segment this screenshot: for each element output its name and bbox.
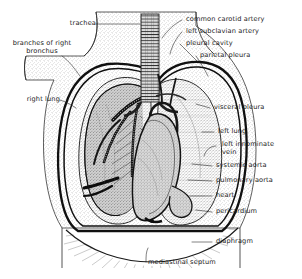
label-left-subclavian-artery: left subclavian artery <box>186 28 302 36</box>
label-branches-of-right-bronchus: branches of right bronchus <box>4 40 80 55</box>
label-pericardium: pericardium <box>216 208 302 216</box>
label-left-innominate-vein: left innominate vein <box>222 141 302 156</box>
label-common-carotid-artery: common carotid artery <box>186 16 302 24</box>
label-left-lung: left lung <box>218 128 302 136</box>
label-trachea: trachea <box>20 20 96 28</box>
label-pulmonary-aorta: pulmonary aorta <box>216 177 302 185</box>
label-pleural-cavity: pleural cavity <box>186 40 302 48</box>
label-heart: heart <box>216 192 302 200</box>
anatomical-figure: trachea branches of right bronchus right… <box>0 0 302 279</box>
label-systemic-aorta: systemic aorta <box>216 162 302 170</box>
label-mediastinal-septum: mediastinal septum <box>148 259 258 267</box>
label-visceral-pleura: visceral pleura <box>214 104 302 112</box>
label-parietal-pleura: parietal pleura <box>200 52 302 60</box>
label-right-lung: right lung <box>4 96 60 104</box>
label-diaphragm: diaphragm <box>216 238 302 246</box>
